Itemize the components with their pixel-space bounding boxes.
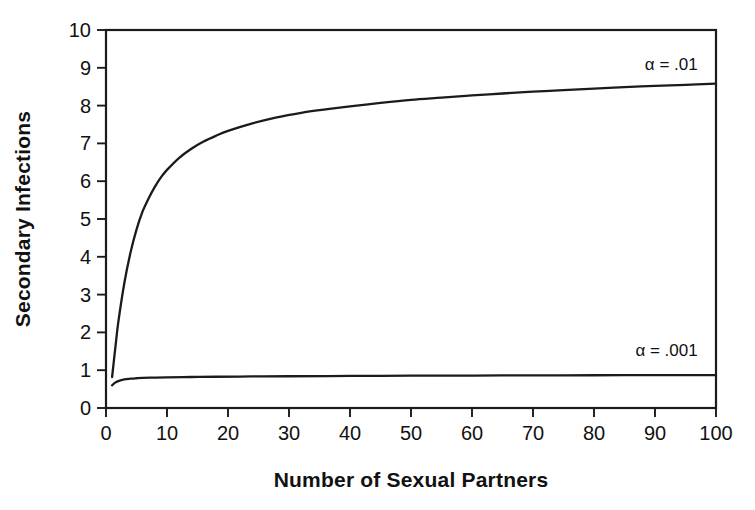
y-tick-label: 6 (80, 170, 91, 192)
curve-series-2 (112, 375, 716, 385)
y-axis-title: Secondary Infections (11, 111, 34, 327)
x-tick-label: 10 (156, 422, 178, 444)
series-annotation-1: α = .01 (645, 55, 698, 74)
curve-series-1 (112, 84, 716, 377)
y-tick-label: 10 (69, 19, 91, 41)
y-tick-label: 3 (80, 284, 91, 306)
series-annotations: α = .01α = .001 (635, 55, 697, 360)
x-tick-label: 0 (100, 422, 111, 444)
y-tick-label: 1 (80, 359, 91, 381)
y-tick-label: 5 (80, 208, 91, 230)
x-tick-label: 40 (339, 422, 361, 444)
x-tick-label: 90 (644, 422, 666, 444)
x-tick-label: 80 (583, 422, 605, 444)
x-axis-title: Number of Sexual Partners (274, 468, 549, 491)
chart-canvas: 0123456789100102030405060708090100 α = .… (0, 0, 755, 510)
series-annotation-2: α = .001 (635, 341, 697, 360)
y-tick-label: 7 (80, 132, 91, 154)
x-tick-label: 70 (522, 422, 544, 444)
x-tick-label: 50 (400, 422, 422, 444)
y-tick-label: 8 (80, 95, 91, 117)
x-tick-label: 20 (217, 422, 239, 444)
data-curves (112, 84, 716, 386)
y-tick-label: 4 (80, 246, 91, 268)
axis-tick-labels: 0123456789100102030405060708090100 (69, 19, 733, 444)
x-tick-label: 30 (278, 422, 300, 444)
y-tick-label: 0 (80, 397, 91, 419)
x-tick-label: 100 (699, 422, 732, 444)
y-tick-label: 9 (80, 57, 91, 79)
y-tick-label: 2 (80, 321, 91, 343)
x-tick-label: 60 (461, 422, 483, 444)
chart-figure: 0123456789100102030405060708090100 α = .… (0, 0, 755, 510)
